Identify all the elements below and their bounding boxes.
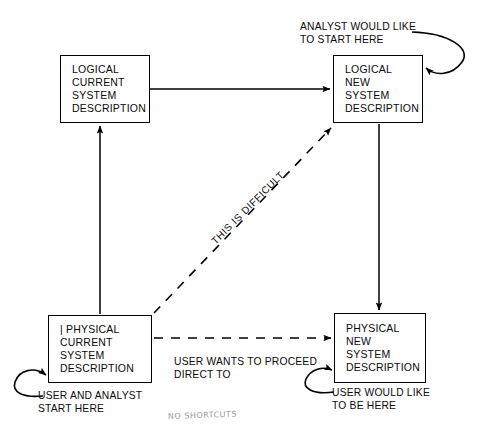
box-line: SYSTEM xyxy=(345,89,422,102)
box-line: DESCRIPTION xyxy=(72,102,149,115)
annotation-line: TO START HERE xyxy=(300,33,416,46)
annotation-user-would-like-to-be-here: USER WOULD LIKE TO BE HERE xyxy=(332,386,430,412)
box-line: CURRENT xyxy=(72,76,149,89)
annotation-line: USER WOULD LIKE xyxy=(332,386,430,399)
annotation-line: USER AND ANALYST xyxy=(38,389,142,402)
box-logical-new-system-description[interactable]: LOGICAL NEW SYSTEM DESCRIPTION xyxy=(333,55,423,123)
annotation-user-and-analyst-start-here: USER AND ANALYST START HERE xyxy=(38,389,142,415)
box-line: DESCRIPTION xyxy=(346,361,425,374)
box-logical-current-system-description[interactable]: LOGICAL CURRENT SYSTEM DESCRIPTION xyxy=(60,55,150,123)
box-line: SYSTEM xyxy=(60,349,151,362)
box-line: SYSTEM xyxy=(72,89,149,102)
annotation-analyst-start-here: ANALYST WOULD LIKE TO START HERE xyxy=(300,20,416,46)
box-line: PHYSICAL xyxy=(346,322,425,335)
annotation-user-wants-to-proceed-direct-to: USER WANTS TO PROCEED DIRECT TO xyxy=(174,355,317,381)
box-line: LOGICAL xyxy=(345,63,422,76)
box-line: NEW xyxy=(346,335,425,348)
annotation-line: DIRECT TO xyxy=(174,368,317,381)
annotation-handwritten-no-shortcuts: NO SHORTCUTS xyxy=(168,408,237,424)
annotation-line: USER WANTS TO PROCEED xyxy=(174,355,317,368)
annotation-line: START HERE xyxy=(38,402,142,415)
box-line: DESCRIPTION xyxy=(345,102,422,115)
box-physical-new-system-description[interactable]: PHYSICAL NEW SYSTEM DESCRIPTION xyxy=(334,313,426,383)
annotation-line: TO BE HERE xyxy=(332,399,430,412)
annotation-line: ANALYST WOULD LIKE xyxy=(300,20,416,33)
box-line: CURRENT xyxy=(60,336,151,349)
box-line: LOGICAL xyxy=(72,63,149,76)
box-line: | PHYSICAL xyxy=(60,323,151,336)
box-line: NEW xyxy=(345,76,422,89)
box-line: SYSTEM xyxy=(346,348,425,361)
box-physical-current-system-description[interactable]: | PHYSICAL CURRENT SYSTEM DESCRIPTION xyxy=(48,315,152,383)
box-line: DESCRIPTION xyxy=(60,362,151,375)
diagram-canvas: LOGICAL CURRENT SYSTEM DESCRIPTION LOGIC… xyxy=(0,0,485,438)
